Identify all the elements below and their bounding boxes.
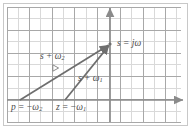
angle-marker xyxy=(53,65,59,71)
label-s-w2-tail: ω xyxy=(55,51,62,61)
diagram-svg xyxy=(0,0,191,135)
label-s-w2-sub: 2 xyxy=(62,54,65,61)
point-s-marker xyxy=(108,42,111,45)
label-pole-p: p = −ω2 xyxy=(11,103,42,113)
label-s-jw-op: = xyxy=(121,38,132,48)
label-z-sub: 1 xyxy=(83,105,86,112)
label-s-w1-op: + xyxy=(82,73,93,83)
label-s-equals-j-omega: s = jω xyxy=(117,39,141,49)
label-zero-z: z = −ω1 xyxy=(56,103,86,113)
label-s-plus-omega2: s + ω2 xyxy=(40,52,65,62)
label-s-w2-op: + xyxy=(44,51,55,61)
label-s-w1-sub: 1 xyxy=(100,76,103,83)
figure-canvas: s = jω s + ω2 s + ω1 p = −ω2 z = −ω1 xyxy=(0,0,191,135)
label-z-op: = − xyxy=(60,102,76,112)
label-s-jw-tail: jω xyxy=(132,38,142,48)
label-s-w1-tail: ω xyxy=(93,73,100,83)
label-p-sub: 2 xyxy=(39,105,42,112)
label-s-plus-omega1: s + ω1 xyxy=(78,74,103,84)
label-p-op: = − xyxy=(16,102,32,112)
